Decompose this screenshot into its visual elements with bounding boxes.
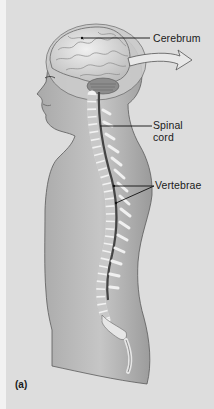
anatomy-diagram: Cerebrum Spinal cord Vertebrae (a) — [0, 0, 214, 409]
vertebra-pointer-dot-1 — [113, 185, 115, 187]
label-vertebrae: Vertebrae — [155, 180, 201, 191]
label-spinal-cord-line1: Spinal — [153, 120, 183, 131]
label-spinal-cord-line2: cord — [153, 132, 174, 143]
vertebra-pointer-dot-2 — [115, 202, 117, 204]
label-cerebrum: Cerebrum — [153, 33, 200, 44]
cerebrum-pointer-dot — [81, 37, 83, 39]
human-profile-illustration — [0, 0, 214, 409]
panel-label: (a) — [15, 379, 27, 390]
